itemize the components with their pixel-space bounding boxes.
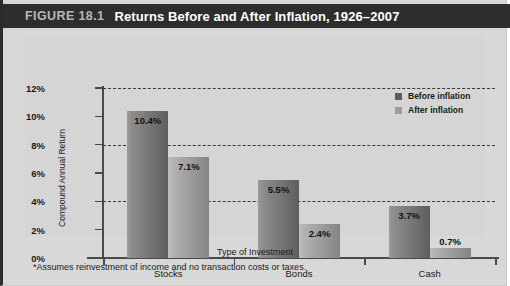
y-axis-tick-label: 10% — [5, 111, 45, 122]
y-axis-tick-mark — [95, 229, 102, 231]
y-axis-tick-mark — [95, 201, 102, 203]
y-axis-tick-mark — [95, 257, 102, 259]
chart-bar-value-label: 2.4% — [299, 228, 340, 239]
chart-bar-value-label: 7.1% — [168, 161, 209, 172]
chart-legend: Before inflation After inflation — [395, 91, 470, 119]
x-axis-tick-mark — [495, 258, 497, 265]
x-axis-title: Type of Investment — [25, 247, 485, 257]
y-axis-tick-label: 8% — [5, 139, 45, 150]
legend-item-before: Before inflation — [395, 91, 470, 101]
y-axis-tick-mark — [95, 172, 102, 174]
legend-item-label: Before inflation — [408, 91, 470, 101]
y-axis-tick-mark — [95, 144, 102, 146]
chart-bar-value-label: 3.7% — [389, 210, 430, 221]
y-axis-tick-label: 12% — [5, 83, 45, 94]
figure-title-bar: FIGURE 18.1 Returns Before and After Inf… — [3, 4, 510, 28]
y-axis-title: Compound Annual Return — [57, 118, 67, 238]
figure-footnote: *Assumes reinvestment of income and no t… — [33, 262, 306, 272]
y-axis-tick-mark — [95, 87, 102, 89]
chart-bar-value-label: 5.5% — [258, 184, 299, 195]
y-axis-tick-label: 6% — [5, 168, 45, 179]
chart-bar-value-label: 0.7% — [430, 236, 471, 247]
x-axis-category-label: Cash — [375, 268, 485, 279]
x-axis-tick-mark — [364, 258, 366, 265]
figure-title-text: Returns Before and After Inflation, 1926… — [114, 9, 399, 24]
chart-plot-frame: Compound Annual Return 0%2%4%6%8%10%12% … — [25, 36, 485, 236]
chart-bar — [127, 111, 168, 258]
legend-item-label: After inflation — [408, 105, 463, 115]
legend-swatch-icon — [395, 93, 402, 100]
y-axis-tick-label: 2% — [5, 224, 45, 235]
legend-item-after: After inflation — [395, 105, 470, 115]
y-axis-tick-label: 4% — [5, 196, 45, 207]
y-axis-tick-mark — [95, 116, 102, 118]
figure-number-label: FIGURE 18.1 — [25, 9, 104, 23]
legend-swatch-icon — [395, 107, 402, 114]
chart-bar-value-label: 10.4% — [127, 115, 168, 126]
chart-bar — [168, 157, 209, 258]
